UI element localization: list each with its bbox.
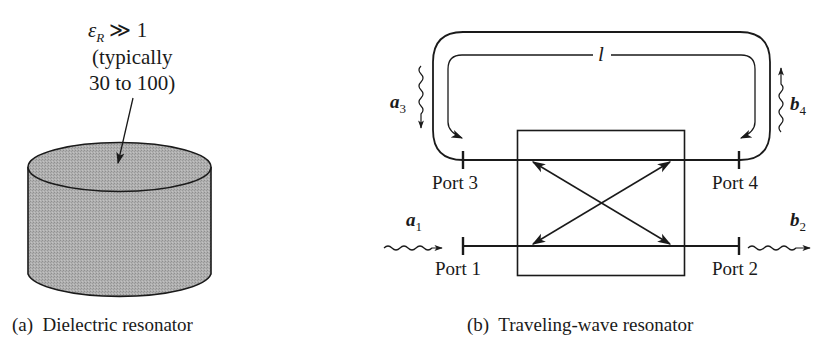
wave-a3-icon — [419, 66, 423, 128]
path-length-indicator — [448, 55, 593, 138]
wave-b4-icon — [779, 68, 783, 132]
path-length-label: l — [598, 44, 604, 65]
wave-b2-sub: 2 — [800, 219, 807, 234]
wave-label-a3: a3 — [390, 92, 406, 111]
wave-a1-icon — [384, 246, 442, 250]
wave-b4-sub: 4 — [800, 103, 807, 118]
port-1-label: Port 1 — [435, 259, 481, 278]
epsilon-subscript: R — [96, 30, 104, 45]
wave-b4-letter: b — [790, 93, 800, 114]
permittivity-annotation: εR ≫ 1 — [88, 20, 147, 41]
wave-label-b2: b2 — [790, 210, 806, 229]
typical-range-line1: (typically — [92, 47, 172, 68]
wave-label-a1: a1 — [406, 210, 422, 229]
caption-b: (b) Traveling-wave resonator — [467, 315, 693, 334]
path-length-indicator-right — [611, 55, 755, 138]
dielectric-cylinder — [28, 143, 211, 297]
port-3-label: Port 3 — [432, 173, 478, 192]
permittivity-relation: ≫ 1 — [109, 18, 147, 42]
typical-range-line2: 30 to 100) — [89, 73, 175, 94]
wave-a3-sub: 3 — [400, 101, 407, 116]
port-4-label: Port 4 — [712, 173, 758, 192]
caption-a: (a) Dielectric resonator — [12, 315, 193, 334]
port-2-label: Port 2 — [712, 259, 758, 278]
wave-a3-letter: a — [390, 91, 400, 112]
wave-a1-letter: a — [406, 209, 416, 230]
wave-a1-sub: 1 — [416, 219, 423, 234]
wave-label-b4: b4 — [790, 94, 806, 113]
wave-b2-icon — [748, 246, 810, 250]
wave-b2-letter: b — [790, 209, 800, 230]
